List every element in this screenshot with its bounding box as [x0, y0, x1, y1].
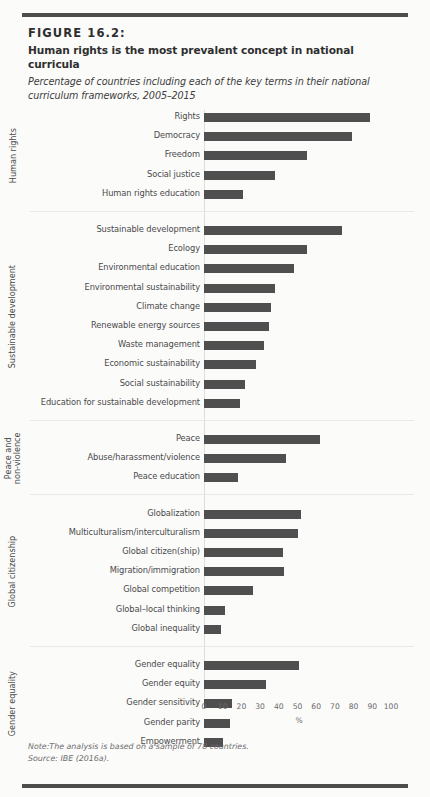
bar-category-label: Ecology: [30, 243, 200, 253]
bar-category-label: Abuse/harassment/violence: [30, 452, 200, 462]
bar-track: [204, 322, 394, 331]
bar-category-label: Social justice: [30, 169, 200, 179]
bar-category-label: Economic sustainability: [30, 358, 200, 368]
bar-group-label-text: Gender equality: [8, 671, 17, 736]
table-row: Human rights education: [30, 187, 414, 202]
bar-track: [204, 303, 394, 312]
bar-category-label: Environmental sustainability: [30, 282, 200, 292]
table-row: Environmental sustainability: [30, 281, 414, 296]
bar-track: [204, 399, 394, 408]
bar: [204, 245, 307, 254]
bar-category-label: Globalization: [30, 508, 200, 518]
bar: [204, 226, 342, 235]
bottom-rule: [22, 784, 408, 788]
bar-track: [204, 548, 394, 557]
x-tick-40: 40: [274, 702, 284, 711]
table-row: Rights: [30, 110, 414, 125]
bar-track: [204, 113, 394, 122]
bar-category-label: Gender equality: [30, 659, 200, 669]
table-row: Multiculturalism/interculturalism: [30, 526, 414, 541]
figure-number: FIGURE 16.2:: [28, 26, 408, 40]
bar: [204, 303, 271, 312]
bar-track: [204, 510, 394, 519]
table-row: Social justice: [30, 168, 414, 183]
bar-group-label: Gender equality: [0, 658, 26, 750]
bar-category-label: Gender sensitivity: [30, 697, 200, 707]
table-row: Globalization: [30, 507, 414, 522]
bar: [204, 473, 238, 482]
bar: [204, 132, 352, 141]
bar: [204, 435, 320, 444]
bar-track: [204, 529, 394, 538]
figure-note: Note:The analysis is based on a sample o…: [28, 741, 408, 753]
bar: [204, 190, 243, 199]
bar-category-label: Global competition: [30, 584, 200, 594]
bar-category-label: Freedom: [30, 149, 200, 159]
bar: [204, 586, 253, 595]
bar-track: [204, 190, 394, 199]
bar: [204, 625, 221, 634]
bar-track: [204, 284, 394, 293]
bar: [204, 151, 307, 160]
table-row: Gender equality: [30, 658, 414, 673]
table-row: Education for sustainable development: [30, 396, 414, 411]
x-axis-ticks: 0102030405060708090100: [204, 702, 394, 714]
bar-track: [204, 132, 394, 141]
bar-category-label: Migration/immigration: [30, 565, 200, 575]
bar-group-label-text: Peace andnon-violence: [4, 433, 23, 485]
bar-track: [204, 245, 394, 254]
bar-track: [204, 171, 394, 180]
table-row: Renewable energy sources: [30, 319, 414, 334]
bar-track: [204, 380, 394, 389]
bar: [204, 399, 240, 408]
bar-track: [204, 341, 394, 350]
bar: [204, 548, 283, 557]
table-row: Peace education: [30, 470, 414, 485]
bar-category-label: Gender equity: [30, 678, 200, 688]
table-row: Social sustainability: [30, 377, 414, 392]
bar-track: [204, 151, 394, 160]
bar: [204, 264, 294, 273]
bar-category-label: Peace: [30, 433, 200, 443]
bar: [204, 341, 264, 350]
bar-category-label: Social sustainability: [30, 378, 200, 388]
bar-category-label: Global inequality: [30, 623, 200, 633]
bar-track: [204, 360, 394, 369]
bar-track: [204, 680, 394, 689]
bar-category-label: Renewable energy sources: [30, 320, 200, 330]
bar-group-label: Global citizenship: [0, 507, 26, 637]
bar-track: [204, 435, 394, 444]
x-tick-20: 20: [237, 702, 247, 711]
bar-group-label-text: Global citizenship: [8, 536, 17, 608]
bar-category-label: Waste management: [30, 339, 200, 349]
bar: [204, 529, 298, 538]
bar-category-label: Global–local thinking: [30, 604, 200, 614]
bar-category-label: Democracy: [30, 130, 200, 140]
bar-track: [204, 473, 394, 482]
figure-header: FIGURE 16.2: Human rights is the most pr…: [28, 26, 408, 102]
x-tick-60: 60: [311, 702, 321, 711]
bar: [204, 171, 275, 180]
figure-card: FIGURE 16.2: Human rights is the most pr…: [0, 0, 430, 797]
bar-group-label: Human rights: [0, 110, 26, 202]
group-separator: [30, 494, 414, 495]
figure-source: Source: IBE (2016a).: [28, 753, 408, 765]
bar-category-label: Gender parity: [30, 717, 200, 727]
bar-track: [204, 567, 394, 576]
x-tick-90: 90: [367, 702, 377, 711]
x-axis-label: %: [204, 716, 394, 725]
table-row: Abuse/harassment/violence: [30, 451, 414, 466]
table-row: Gender equity: [30, 677, 414, 692]
bar-category-label: Human rights education: [30, 188, 200, 198]
table-row: Ecology: [30, 242, 414, 257]
table-row: Peace: [30, 432, 414, 447]
x-tick-0: 0: [202, 702, 207, 711]
bar-group-label-text: Human rights: [8, 128, 17, 183]
table-row: Democracy: [30, 129, 414, 144]
bar-track: [204, 606, 394, 615]
bar-category-label: Multiculturalism/interculturalism: [30, 527, 200, 537]
bar-category-label: Global citizen(ship): [30, 546, 200, 556]
figure-title: Human rights is the most prevalent conce…: [28, 43, 408, 72]
table-row: Global citizen(ship): [30, 545, 414, 560]
bar-group-label: Peace andnon-violence: [0, 432, 26, 485]
